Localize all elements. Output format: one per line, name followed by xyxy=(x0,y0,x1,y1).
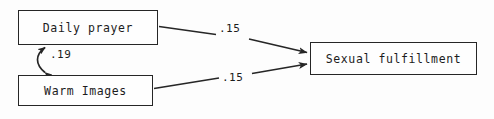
edge-prayer-to-fulfillment xyxy=(159,27,216,35)
edge-label-prayer-images-correlation: .19 xyxy=(50,48,71,61)
edge-label-prayer-to-fulfillment: .15 xyxy=(219,22,240,35)
node-daily-prayer: Daily prayer xyxy=(18,10,158,45)
node-sexual-fulfillment-label: Sexual fulfillment xyxy=(326,52,461,66)
path-diagram: Daily prayer Warm Images Sexual fulfillm… xyxy=(0,0,494,119)
node-sexual-fulfillment: Sexual fulfillment xyxy=(310,42,477,75)
edge-prayer-images-correlation xyxy=(38,48,46,73)
node-warm-images-label: Warm Images xyxy=(44,84,127,98)
node-daily-prayer-label: Daily prayer xyxy=(43,21,133,35)
edge-images-to-fulfillment xyxy=(154,78,219,89)
node-warm-images: Warm Images xyxy=(18,75,153,106)
edge-prayer-to-fulfillment-arrow xyxy=(249,39,307,53)
edge-images-to-fulfillment-arrow xyxy=(252,64,307,74)
edge-label-images-to-fulfillment: .15 xyxy=(222,71,243,84)
